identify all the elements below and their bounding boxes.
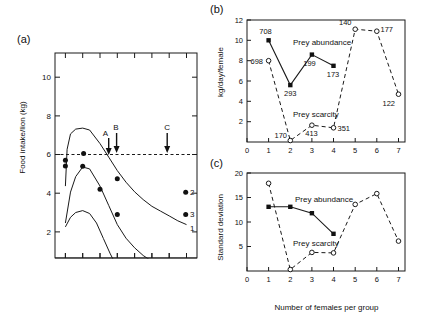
panel-a-point <box>63 164 68 169</box>
panel-a-point <box>80 164 85 169</box>
panel-a-y-tick-labels: 2 4 6 8 10 <box>42 73 51 237</box>
panel-c-xtick-0: 0 <box>245 275 249 284</box>
panel-b-xtick-7: 7 <box>396 146 400 155</box>
panel-b-ytick-4: 4 <box>239 97 243 106</box>
panel-a-arrow-b-label: B <box>113 123 118 132</box>
panel-b-ytick-8: 8 <box>239 56 243 65</box>
panel-a: (a) Food intake/lion (kg) Lion group siz… <box>0 0 215 326</box>
panel-b-xtick-6: 6 <box>375 146 379 155</box>
panel-c-marker-open <box>331 251 336 256</box>
panel-b-lbl-698: 698 <box>250 57 263 66</box>
panel-c-marker-filled <box>331 232 335 236</box>
panel-a-ytick-10: 10 <box>42 73 51 82</box>
panel-c-x-ticks <box>247 267 399 271</box>
panel-b-xtick-3: 3 <box>310 146 314 155</box>
panel-b-xtick-1: 1 <box>267 146 271 155</box>
panel-a-arrow-a-label: A <box>103 129 109 138</box>
panel-b-lbl-122: 122 <box>382 99 395 108</box>
panel-a-arrow-a: A <box>103 129 112 155</box>
panel-b-label-prey-scarcity: Prey scarcity <box>293 110 339 119</box>
panel-c-marker-open <box>266 181 271 186</box>
panel-a-curve-1-label: 1 <box>190 224 195 233</box>
panel-b-marker-open <box>353 27 358 32</box>
panel-a-axis-frame <box>55 53 197 258</box>
panel-c-xtick-7: 7 <box>396 275 400 284</box>
panel-b-xtick-2: 2 <box>288 146 292 155</box>
panel-b-xtick-5: 5 <box>353 146 357 155</box>
panel-b-marker-filled <box>331 64 335 68</box>
panel-c-marker-filled <box>310 211 314 215</box>
panel-a-curve-3-label: 3 <box>190 210 195 219</box>
panel-c-xtick-3: 3 <box>310 275 314 284</box>
panel-a-point <box>98 187 103 192</box>
panel-a-point <box>115 176 120 181</box>
panel-b-lbl-413: 413 <box>305 129 318 138</box>
panel-c-ytick-5: 5 <box>239 242 243 251</box>
panel-b-marker-open <box>288 138 293 143</box>
panel-b-point-labels: 708 293 199 173 698 170 413 351 140 177 … <box>250 18 395 140</box>
panel-a-ytick-2: 2 <box>47 228 52 237</box>
panel-c-marker-open <box>396 239 401 244</box>
panel-b-xtick-0: 0 <box>245 146 249 155</box>
panel-b-ytick-2: 2 <box>239 117 243 126</box>
panel-b-lbl-351: 351 <box>338 124 351 133</box>
panel-b-marker-open <box>396 92 401 97</box>
panel-b-marker-open <box>375 29 380 34</box>
panel-c-xtick-2: 2 <box>288 275 292 284</box>
panel-b-marker-filled <box>310 52 314 56</box>
panel-b-series-prey-abundance <box>269 40 334 85</box>
panel-c-marker-open <box>375 191 380 196</box>
panel-b-y-tick-labels: 2 4 6 8 10 12 <box>235 16 243 127</box>
panel-c-y-tick-labels: 5 10 15 20 <box>235 169 243 252</box>
panel-c-marker-filled <box>266 205 270 209</box>
panel-c-marker-filled <box>288 205 292 209</box>
panel-c-xtick-4: 4 <box>331 275 335 284</box>
panel-b-xtick-4: 4 <box>331 146 335 155</box>
panel-c-y-ticks <box>247 173 251 247</box>
panel-a-y-ticks <box>55 77 197 232</box>
panel-b-ytick-6: 6 <box>239 77 243 86</box>
panel-a-arrow-c: C <box>164 123 170 153</box>
panel-c-ytick-20: 20 <box>235 169 243 178</box>
panel-c-label-prey-scarcity: Prey scarcity <box>293 239 339 248</box>
panel-b-x-tick-labels: 0 1 2 3 4 5 6 7 <box>245 146 401 155</box>
panel-b-lbl-170: 170 <box>274 131 287 140</box>
panel-c-marker-open <box>310 250 315 255</box>
panel-c-plot: 5 10 15 20 0 1 2 3 4 <box>205 155 422 326</box>
panel-a-x-ticks-redraw <box>65 253 186 258</box>
panel-c-abundance-markers <box>266 205 335 236</box>
panel-b-lbl-293: 293 <box>284 89 297 98</box>
panel-c-xtick-1: 1 <box>267 275 271 284</box>
panel-b-label-prey-abundance: Prey abundance <box>293 38 352 47</box>
panel-b: (b) kg/day/female 2 4 6 8 10 12 <box>205 0 422 160</box>
panel-b-marker-filled <box>266 38 270 42</box>
figure-root: (a) Food intake/lion (kg) Lion group siz… <box>0 0 422 326</box>
panel-b-plot: 2 4 6 8 10 12 0 1 2 <box>205 0 422 160</box>
panel-a-arrow-b: B <box>113 123 119 153</box>
panel-c: (c) Standard deviation Number of females… <box>205 155 422 326</box>
panel-a-point <box>115 212 120 217</box>
panel-c-x-tick-labels: 0 1 2 3 4 5 6 7 <box>245 275 401 284</box>
panel-a-ytick-4: 4 <box>47 189 52 198</box>
panel-c-xtick-6: 6 <box>375 275 379 284</box>
panel-a-curve-2-label: 2 <box>190 188 195 197</box>
panel-c-marker-open <box>288 267 293 272</box>
panel-a-curve-2 <box>65 167 186 275</box>
panel-b-lbl-140: 140 <box>339 18 352 27</box>
panel-a-arrow-c-label: C <box>164 123 170 132</box>
panel-a-point <box>63 158 68 163</box>
panel-a-point <box>183 212 188 217</box>
panel-c-label-prey-abundance: Prey abundance <box>295 195 354 204</box>
panel-c-ytick-15: 15 <box>235 193 243 202</box>
panel-a-below-axis-mask <box>0 259 215 326</box>
panel-a-data-points <box>63 151 188 217</box>
panel-a-ytick-8: 8 <box>47 112 52 121</box>
panel-a-plot: 2 4 6 8 10 <box>0 0 215 326</box>
panel-b-y-ticks <box>247 20 251 122</box>
panel-a-point <box>81 151 86 156</box>
panel-c-xtick-5: 5 <box>353 275 357 284</box>
panel-a-point <box>183 190 188 195</box>
panel-c-marker-open <box>353 202 358 207</box>
panel-a-curve-1 <box>65 128 186 225</box>
panel-b-ytick-12: 12 <box>235 16 243 25</box>
